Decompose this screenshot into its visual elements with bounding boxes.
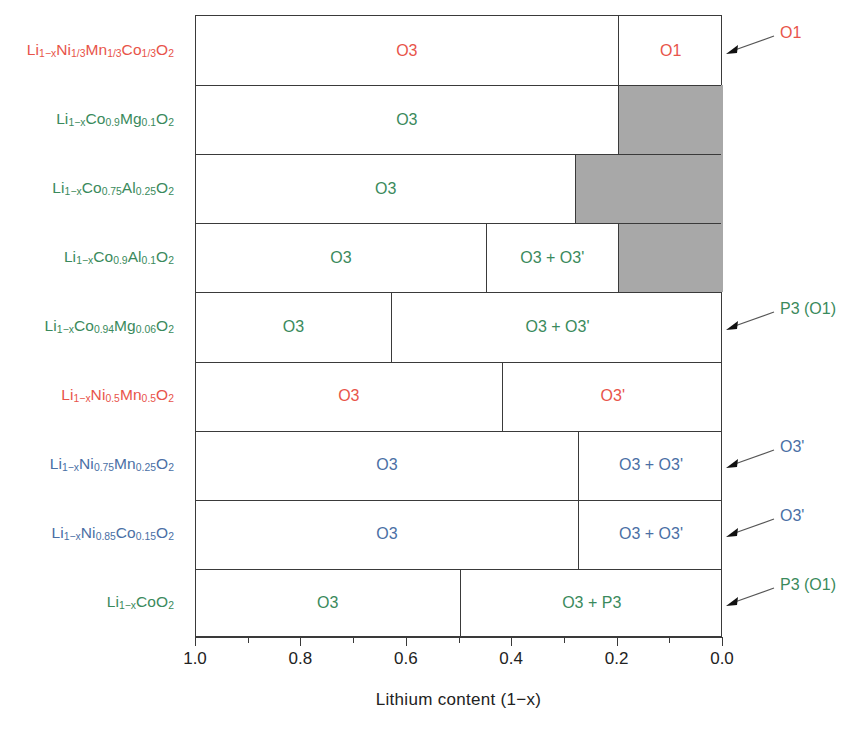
phase-segment-label: O3 xyxy=(283,318,304,336)
x-tick-major xyxy=(195,637,196,646)
x-tick-minor xyxy=(669,637,670,643)
phase-segment: O3 xyxy=(196,500,578,569)
plot-area: O3O1O3O3O3O3 + O3'O3O3 + O3'O3O3'O3O3 + … xyxy=(195,15,722,637)
x-tick-major xyxy=(722,637,723,646)
phase-band-row: O3O3 + O3' xyxy=(196,292,721,361)
row-label-Li1-xNi0.85Co0.15O2: Li1−xNi0.85Co0.15O2 xyxy=(0,525,186,543)
phase-segment: O3 xyxy=(196,362,502,431)
x-tick-minor xyxy=(459,637,460,643)
band-separator xyxy=(196,362,721,363)
phase-segment xyxy=(618,85,723,154)
phase-segment-label: O3 xyxy=(375,180,396,198)
phase-band-row: O3O3 + P3 xyxy=(196,569,721,638)
phase-band-row: O3 xyxy=(196,85,721,154)
x-tick-minor xyxy=(248,637,249,643)
row-label-Li1-xNi0.5Mn0.5O2: Li1−xNi0.5Mn0.5O2 xyxy=(0,387,186,405)
phase-segment-label: O3 xyxy=(376,525,397,543)
x-tick-major xyxy=(511,637,512,646)
x-axis-title: Lithium content (1−x) xyxy=(195,690,722,710)
x-tick-major xyxy=(300,637,301,646)
row-label-Li1-xCo0.9Al0.1O2: Li1−xCo0.9Al0.1O2 xyxy=(0,249,186,267)
phase-segment: O3 xyxy=(196,154,575,223)
phase-segment: O3 xyxy=(196,569,460,638)
phase-segment xyxy=(575,154,723,223)
annotation-label: O3' xyxy=(780,507,804,525)
phase-band-row: O3O3 + O3' xyxy=(196,223,721,292)
phase-segment: O3 xyxy=(196,223,486,292)
phase-segment: O3 + P3 xyxy=(460,569,724,638)
x-tick-label: 0.8 xyxy=(289,649,313,669)
phase-segment-label: O3 + O3' xyxy=(619,525,683,543)
phase-segment: O3 xyxy=(196,292,391,361)
phase-band-row: O3O3 + O3' xyxy=(196,431,721,500)
annotation-arrow-icon xyxy=(722,34,774,60)
row-label-Li1-xCo0.9Mg0.1O2: Li1−xCo0.9Mg0.1O2 xyxy=(0,111,186,129)
band-separator xyxy=(196,154,721,155)
phase-segment: O3 xyxy=(196,431,578,500)
phase-segment-label: O1 xyxy=(660,42,681,60)
x-tick-label: 0.6 xyxy=(394,649,418,669)
x-tick-minor xyxy=(353,637,354,643)
phase-segment: O1 xyxy=(618,16,723,85)
x-tick-label: 0.4 xyxy=(499,649,523,669)
x-tick-label: 1.0 xyxy=(183,649,207,669)
x-tick-label: 0.0 xyxy=(710,649,734,669)
annotation-label: P3 (O1) xyxy=(780,576,836,594)
phase-band-row: O3O3 + O3' xyxy=(196,500,721,569)
band-separator xyxy=(196,292,721,293)
row-label-Li1-xCo0.94Mg0.06O2: Li1−xCo0.94Mg0.06O2 xyxy=(0,318,186,336)
x-tick-minor xyxy=(564,637,565,643)
phase-segment: O3 + O3' xyxy=(486,223,618,292)
annotation-label: P3 (O1) xyxy=(780,300,836,318)
annotation-arrow-icon xyxy=(722,310,774,336)
annotation-label: O3' xyxy=(780,438,804,456)
row-label-Li1-xCoO2: Li1−xCoO2 xyxy=(0,594,186,612)
phase-segment: O3' xyxy=(502,362,723,431)
phase-segment-label: O3 xyxy=(338,387,359,405)
phase-segment-label: O3 + O3' xyxy=(520,249,584,267)
phase-segment-label: O3' xyxy=(601,387,625,405)
band-separator xyxy=(196,431,721,432)
annotation-label: O1 xyxy=(780,24,801,42)
phase-segment-label: O3 xyxy=(396,111,417,129)
phase-segment: O3 xyxy=(196,16,618,85)
band-separator xyxy=(196,500,721,501)
annotation-arrow-icon xyxy=(722,448,774,474)
x-tick-major xyxy=(617,637,618,646)
phase-segment: O3 xyxy=(196,85,618,154)
row-label-Li1-xNi0.75Mn0.25O2: Li1−xNi0.75Mn0.25O2 xyxy=(0,456,186,474)
phase-segment xyxy=(618,223,723,292)
phase-segment-label: O3 xyxy=(330,249,351,267)
row-label-column: Li1−xNi1/3Mn1/3Co1/3O2Li1−xCo0.9Mg0.1O2L… xyxy=(0,0,186,729)
band-separator xyxy=(196,569,721,570)
phase-segment-label: O3 + O3' xyxy=(619,456,683,474)
phase-segment-label: O3 xyxy=(317,594,338,612)
phase-segment-label: O3 + O3' xyxy=(525,318,589,336)
phase-band-row: O3O1 xyxy=(196,16,721,85)
band-separator xyxy=(196,85,721,86)
phase-segment-label: O3 xyxy=(396,42,417,60)
row-label-Li1-xCo0.75Al0.25O2: Li1−xCo0.75Al0.25O2 xyxy=(0,180,186,198)
annotation-arrow-icon xyxy=(722,586,774,612)
x-tick-major xyxy=(406,637,407,646)
band-separator xyxy=(196,223,721,224)
phase-segment: O3 + O3' xyxy=(578,431,723,500)
phase-segment-label: O3 + P3 xyxy=(562,594,621,612)
phase-segment-label: O3 xyxy=(376,456,397,474)
row-label-Li1-xNi1/3Mn1/3Co1/3O2: Li1−xNi1/3Mn1/3Co1/3O2 xyxy=(0,42,186,60)
x-tick-label: 0.2 xyxy=(605,649,629,669)
annotation-arrow-icon xyxy=(722,517,774,543)
phase-band-row: O3 xyxy=(196,154,721,223)
phase-segment: O3 + O3' xyxy=(391,292,723,361)
phase-diagram-figure: Li1−xNi1/3Mn1/3Co1/3O2Li1−xCo0.9Mg0.1O2L… xyxy=(0,0,847,729)
phase-band-row: O3O3' xyxy=(196,362,721,431)
phase-segment: O3 + O3' xyxy=(578,500,723,569)
